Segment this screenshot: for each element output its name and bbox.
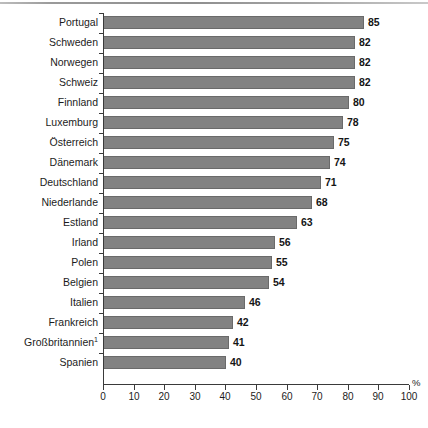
category-tick: [99, 253, 104, 254]
category-label: Frankreich: [0, 316, 98, 329]
bar-row: Spanien40: [0, 353, 428, 373]
bar: [104, 216, 297, 229]
bar-value-label: 63: [301, 215, 313, 229]
bar-value-label: 56: [279, 235, 291, 249]
bar-row: Italien46: [0, 293, 428, 313]
category-tick: [99, 193, 104, 194]
bar: [104, 116, 343, 129]
bar-value-label: 54: [273, 275, 285, 289]
category-tick: [99, 173, 104, 174]
category-tick: [99, 353, 104, 354]
category-tick: [99, 133, 104, 134]
bar: [104, 316, 233, 329]
bar-row: Polen55: [0, 253, 428, 273]
category-tick: [99, 53, 104, 54]
bar-value-label: 42: [237, 315, 249, 329]
category-label: Polen: [0, 256, 98, 269]
category-label: Schweden: [0, 36, 98, 49]
bar: [104, 256, 272, 269]
category-label: Dänemark: [0, 156, 98, 169]
footnote-marker: 1: [94, 336, 98, 343]
x-axis-tick: [164, 385, 165, 390]
bar-row: Norwegen82: [0, 53, 428, 73]
bar-row: Großbritannien141: [0, 333, 428, 353]
category-tick: [99, 153, 104, 154]
bar-value-label: 82: [359, 35, 371, 49]
bar-value-label: 46: [249, 295, 261, 309]
bar-value-label: 85: [368, 15, 380, 29]
bar-row: Schweden82: [0, 33, 428, 53]
bar: [104, 276, 269, 289]
category-label: Großbritannien1: [0, 336, 98, 349]
category-label: Luxemburg: [0, 116, 98, 129]
bar-chart-plot: Portugal85Schweden82Norwegen82Schweiz82F…: [0, 0, 428, 428]
category-label: Portugal: [0, 16, 98, 29]
bar: [104, 196, 312, 209]
bar-value-label: 82: [359, 75, 371, 89]
bar: [104, 336, 229, 349]
bar: [104, 96, 349, 109]
category-tick: [99, 313, 104, 314]
bar-row: Irland56: [0, 233, 428, 253]
bar: [104, 76, 355, 89]
x-axis-tick: [134, 385, 135, 390]
x-axis-tick: [225, 385, 226, 390]
x-axis-tick: [317, 385, 318, 390]
category-label: Schweiz: [0, 76, 98, 89]
x-axis-tick: [378, 385, 379, 390]
bar-row: Österreich75: [0, 133, 428, 153]
category-tick: [99, 333, 104, 334]
bar: [104, 356, 226, 369]
chart-page: Portugal85Schweden82Norwegen82Schweiz82F…: [0, 0, 428, 428]
category-label: Irland: [0, 236, 98, 249]
category-label: Norwegen: [0, 56, 98, 69]
bar-value-label: 41: [233, 335, 245, 349]
bar-value-label: 80: [353, 95, 365, 109]
category-tick: [99, 293, 104, 294]
category-label: Deutschland: [0, 176, 98, 189]
bar: [104, 136, 334, 149]
x-axis-tick: [103, 385, 104, 390]
bar-row: Estland63: [0, 213, 428, 233]
bar: [104, 156, 330, 169]
category-tick: [99, 93, 104, 94]
category-tick: [99, 73, 104, 74]
category-tick: [99, 213, 104, 214]
bar-row: Belgien54: [0, 273, 428, 293]
bar-row: Niederlande68: [0, 193, 428, 213]
bar-row: Finnland80: [0, 93, 428, 113]
bar: [104, 36, 355, 49]
bar-value-label: 71: [325, 175, 337, 189]
bar-rows: Portugal85Schweden82Norwegen82Schweiz82F…: [0, 13, 428, 373]
bar-value-label: 40: [230, 355, 242, 369]
x-axis-tick: [348, 385, 349, 390]
bar: [104, 296, 245, 309]
category-label: Österreich: [0, 136, 98, 149]
x-axis-tick: [409, 385, 410, 390]
x-axis-tick: [195, 385, 196, 390]
bar-value-label: 74: [334, 155, 346, 169]
x-axis-tick: [287, 385, 288, 390]
category-label: Finnland: [0, 96, 98, 109]
category-tick: [99, 273, 104, 274]
axis-unit-label: %: [412, 377, 420, 388]
bar: [104, 56, 355, 69]
bar-row: Schweiz82: [0, 73, 428, 93]
bar-value-label: 68: [316, 195, 328, 209]
bar-row: Dänemark74: [0, 153, 428, 173]
bar-value-label: 82: [359, 55, 371, 69]
bar: [104, 16, 364, 29]
bar-row: Frankreich42: [0, 313, 428, 333]
bar: [104, 236, 275, 249]
category-tick: [99, 113, 104, 114]
category-tick: [99, 13, 104, 14]
x-axis-tick: [256, 385, 257, 390]
bar-row: Deutschland71: [0, 173, 428, 193]
category-label: Estland: [0, 216, 98, 229]
bar-row: Luxemburg78: [0, 113, 428, 133]
category-tick: [99, 233, 104, 234]
bar: [104, 176, 321, 189]
bar-row: Portugal85: [0, 13, 428, 33]
bar-value-label: 78: [347, 115, 359, 129]
category-label: Spanien: [0, 356, 98, 369]
